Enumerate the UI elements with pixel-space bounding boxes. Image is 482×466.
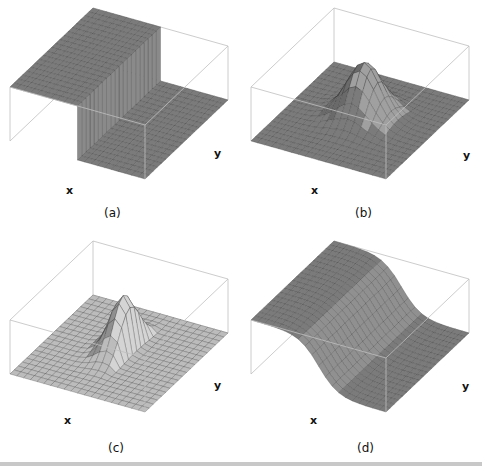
bounding-box-edge xyxy=(334,8,469,46)
x-axis-label: x xyxy=(64,415,71,426)
panel-caption: (c) xyxy=(108,442,124,454)
surface-patch xyxy=(102,78,106,136)
x-axis-label: x xyxy=(311,185,318,196)
y-axis-label: y xyxy=(462,381,469,392)
surface-patch xyxy=(152,31,156,89)
y-axis-label: y xyxy=(463,150,470,161)
surface-patch xyxy=(127,55,131,113)
surface-patch xyxy=(90,90,94,148)
surface-plot-gaussian xyxy=(241,0,482,233)
surface-patch xyxy=(98,82,102,140)
surface-plot-half-gaussian xyxy=(0,233,241,466)
panel-b: x y (b) xyxy=(241,0,482,233)
y-axis-label: y xyxy=(214,148,221,159)
surface-patch xyxy=(131,51,135,109)
surface-patch xyxy=(78,102,82,160)
surface-patch xyxy=(86,94,90,152)
surface-patch xyxy=(119,63,123,121)
surface-patch xyxy=(82,98,86,156)
panel-caption: (d) xyxy=(357,442,374,454)
panel-d: x y (d) xyxy=(241,233,482,466)
panel-caption: (a) xyxy=(104,207,121,219)
surface-patch xyxy=(107,74,111,132)
surface-patch xyxy=(156,27,160,85)
surface-patch xyxy=(123,59,127,117)
panel-caption: (b) xyxy=(355,207,372,219)
panel-c: x y (c) xyxy=(0,233,241,466)
x-axis-label: x xyxy=(66,185,73,196)
surface-plot-step xyxy=(0,0,241,233)
surface-patch xyxy=(136,47,140,105)
surface-patch xyxy=(115,67,119,125)
x-axis-label: x xyxy=(310,415,317,426)
bottom-divider xyxy=(0,462,482,466)
bounding-box-edge xyxy=(93,241,228,279)
surface-patch xyxy=(94,86,98,144)
surface-patch xyxy=(144,39,148,97)
surface-patch xyxy=(111,71,115,129)
surface-patch xyxy=(148,35,152,93)
surface-plot-smooth-step xyxy=(241,233,482,466)
y-axis-label: y xyxy=(214,380,221,391)
surface-patch xyxy=(140,43,144,101)
panel-a: x y (a) xyxy=(0,0,241,233)
